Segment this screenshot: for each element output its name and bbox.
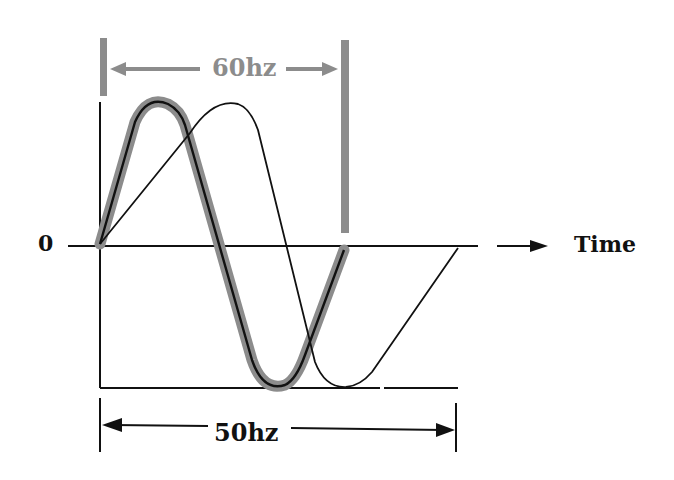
frequency-50hz-label: 50hz [214,421,278,445]
wave-60hz-highlight [100,102,344,387]
dim-50hz-left-arrow-icon [102,418,122,432]
dim-50hz-right-shaft [291,428,444,430]
dim-60hz-left-arrow-icon [110,62,126,76]
marker-60hz-left [100,38,107,96]
zero-label: 0 [38,232,53,254]
frequency-60hz-label: 60hz [212,56,276,80]
dim-60hz-right-arrow-icon [322,62,338,76]
dim-50hz-left-shaft [112,425,208,426]
time-axis-label: Time [574,233,636,255]
dim-50hz-right-arrow-icon [436,423,455,437]
time-arrow-head-icon [530,240,548,252]
waveform-diagram [0,0,674,480]
marker-60hz-right [341,40,349,233]
